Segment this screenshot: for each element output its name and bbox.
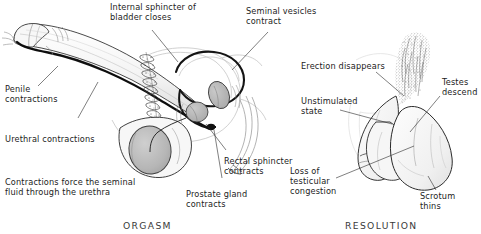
label-rectal-sphincter: Rectal sphincter contracts [224, 156, 293, 176]
label-seminal-fluid: Contractions force the seminal fluid thr… [5, 177, 135, 197]
scrotum-orgasm [119, 117, 191, 177]
caption-resolution: RESOLUTION [345, 220, 418, 231]
label-loss-of-testicular-congestion: Loss of testicular congestion [290, 166, 336, 197]
label-urethral-contractions: Urethral contractions [5, 134, 95, 144]
label-scrotum-thins: Scrotum thins [420, 191, 455, 211]
caption-orgasm: ORGASM [123, 220, 172, 231]
internal-sphincter [206, 124, 216, 130]
label-seminal-vesicles: Seminal vesicles contract [246, 6, 316, 26]
label-erection-disappears: Erection disappears [301, 61, 385, 71]
figure-canvas: Internal sphincter of bladder closes Sem… [0, 0, 481, 234]
label-unstimulated-state: Unstimulated state [301, 96, 358, 116]
label-penile-contractions: Penile contractions [5, 84, 58, 104]
label-testes-descend: Testes descend [442, 77, 477, 97]
label-internal-sphincter: Internal sphincter of bladder closes [110, 2, 196, 22]
label-prostate-gland: Prostate gland contracts [186, 189, 247, 209]
